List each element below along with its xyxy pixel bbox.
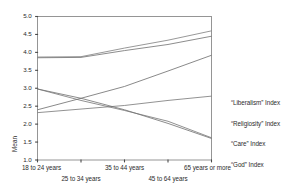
y-tick-label: 5.0: [14, 13, 32, 19]
series-lines: [38, 31, 212, 139]
x-tick-label: 65 years or more: [177, 165, 239, 172]
y-tick-label: 3.5: [14, 67, 32, 73]
x-tick-label: 45 to 64 years: [137, 176, 199, 183]
x-tick-label: 35 to 44 years: [94, 165, 156, 172]
line-chart: 5.04.54.03.53.02.52.01.51.0 Mean 18 to 2…: [0, 0, 303, 192]
series-line-0: [38, 31, 212, 57]
legend-item[interactable]: “God” Index: [231, 162, 264, 168]
legend-item[interactable]: “Liberalism” Index: [231, 100, 280, 106]
y-tick-label: 3.0: [14, 85, 32, 91]
y-tick-label: 2.0: [14, 121, 32, 127]
plot-border: [38, 17, 212, 161]
x-tick-label: 25 to 34 years: [50, 176, 112, 183]
y-tick-label: 4.0: [14, 49, 32, 55]
plot-frame: [38, 17, 212, 161]
x-tick-label: 18 to 24 years: [11, 165, 73, 172]
series-line-4: [38, 89, 212, 139]
series-line-5: [38, 89, 212, 138]
y-axis-title: Mean: [12, 136, 18, 152]
series-line-2: [38, 55, 212, 110]
series-line-1: [38, 36, 212, 58]
legend-item[interactable]: “Religiosity” Index: [231, 121, 280, 127]
y-tick-label: 1.0: [14, 157, 32, 163]
y-tick-label: 2.5: [14, 103, 32, 109]
legend-item[interactable]: “Care” Index: [231, 141, 265, 147]
y-tick-label: 4.5: [14, 31, 32, 37]
